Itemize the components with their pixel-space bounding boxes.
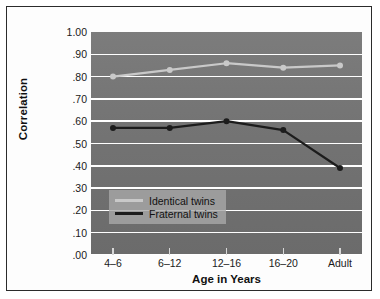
- x-axis-tick-label: 16–20: [253, 257, 313, 269]
- y-axis-tick-label: .30: [51, 183, 87, 194]
- data-point-marker: [280, 127, 286, 133]
- data-point-marker: [280, 65, 286, 71]
- legend-swatch-identical-twins: [115, 199, 143, 202]
- plot-area: Identical twins Fraternal twins: [91, 32, 362, 255]
- y-axis-title: Correlation: [17, 59, 29, 159]
- x-axis-tick-label: 6–12: [140, 257, 200, 269]
- data-point-marker: [110, 74, 116, 80]
- x-axis-tick-label: 4–6: [83, 257, 143, 269]
- legend-label-identical-twins: Identical twins: [149, 195, 215, 207]
- x-axis-title: Age in Years: [91, 273, 362, 285]
- data-point-marker: [337, 62, 343, 68]
- data-point-marker: [167, 125, 173, 131]
- data-point-marker: [337, 165, 343, 171]
- legend-swatch-fraternal-twins: [115, 212, 143, 215]
- data-point-marker: [110, 125, 116, 131]
- chart-legend: Identical twins Fraternal twins: [109, 190, 226, 224]
- x-axis-tick-label: Adult: [310, 257, 370, 269]
- data-point-marker: [224, 60, 230, 66]
- x-axis-tick-labels: 4–66–1212–1616–20Adult: [91, 257, 362, 273]
- y-axis-tick-label: .80: [51, 72, 87, 83]
- y-axis-tick-label: .50: [51, 139, 87, 150]
- y-axis-tick-label: .40: [51, 161, 87, 172]
- data-point-marker: [224, 118, 230, 124]
- y-axis-tick-labels: 1.00.90.80.70.60.50.40.30.20.10.00: [47, 32, 87, 255]
- y-axis-tick-label: .20: [51, 205, 87, 216]
- series-line: [113, 121, 340, 168]
- y-axis-tick-label: .10: [51, 228, 87, 239]
- figure-card: Correlation 1.00.90.80.70.60.50.40.30.20…: [6, 6, 372, 291]
- data-point-marker: [167, 67, 173, 73]
- x-axis-tick-label: 12–16: [197, 257, 257, 269]
- y-axis-tick-label: .90: [51, 49, 87, 60]
- y-axis-tick-label: .60: [51, 116, 87, 127]
- y-axis-tick-label: 1.00: [51, 27, 87, 38]
- legend-label-fraternal-twins: Fraternal twins: [149, 208, 218, 220]
- legend-item-fraternal-twins: Fraternal twins: [115, 207, 218, 220]
- legend-item-identical-twins: Identical twins: [115, 194, 218, 207]
- y-axis-tick-label: .70: [51, 94, 87, 105]
- y-axis-tick-label: .00: [51, 250, 87, 261]
